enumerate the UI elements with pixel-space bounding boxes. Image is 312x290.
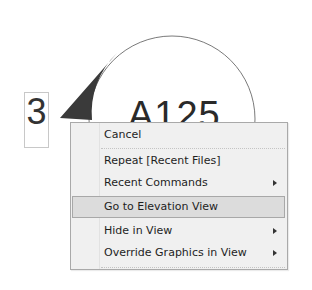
drawing-canvas[interactable]: A125 3 Cancel Repeat [Recent Files] Rece… — [0, 0, 312, 290]
menu-item-label: Repeat [Recent Files] — [104, 150, 220, 172]
menu-item-go-to-elevation-view[interactable]: Go to Elevation View — [72, 196, 285, 218]
submenu-arrow-icon — [273, 228, 277, 234]
menu-item-cancel[interactable]: Cancel — [72, 124, 286, 146]
elevation-number: 3 — [24, 94, 49, 130]
context-menu: Cancel Repeat [Recent Files] Recent Comm… — [70, 122, 288, 270]
menu-item-recent-commands[interactable]: Recent Commands — [72, 172, 286, 194]
menu-item-label: Cancel — [104, 124, 141, 146]
menu-separator — [101, 267, 285, 268]
submenu-arrow-icon — [273, 180, 277, 186]
menu-item-label: Go to Elevation View — [104, 197, 218, 217]
menu-item-override-graphics[interactable]: Override Graphics in View — [72, 242, 286, 264]
submenu-arrow-icon — [273, 250, 277, 256]
menu-item-label: Recent Commands — [104, 172, 208, 194]
menu-separator — [101, 148, 285, 149]
menu-item-hide-in-view[interactable]: Hide in View — [72, 220, 286, 242]
menu-item-label: Override Graphics in View — [104, 242, 247, 264]
menu-item-repeat[interactable]: Repeat [Recent Files] — [72, 150, 286, 172]
menu-item-label: Hide in View — [104, 220, 172, 242]
